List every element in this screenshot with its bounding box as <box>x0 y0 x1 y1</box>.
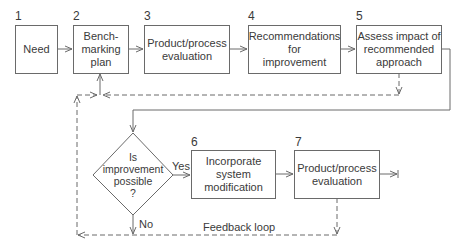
step-6-number: 6 <box>191 136 198 148</box>
step-7-box: Product/process evaluation <box>294 150 380 199</box>
step-1-box: Need <box>15 25 58 74</box>
feedback-loop-label: Feedback loop <box>203 221 275 233</box>
benchmarking-flowchart: 1 Need 2 Bench- marking plan 3 Product/p… <box>0 0 463 249</box>
step-7-number: 7 <box>295 136 302 148</box>
step-1-number: 1 <box>15 10 22 22</box>
step-4-number: 4 <box>248 10 255 22</box>
yes-label: Yes <box>172 160 190 172</box>
step-3-box: Product/process evaluation <box>144 25 230 74</box>
step-2-box: Bench- marking plan <box>73 25 129 74</box>
step-5-number: 5 <box>356 10 363 22</box>
no-label: No <box>139 218 153 230</box>
step-2-number: 2 <box>73 10 80 22</box>
step-3-number: 3 <box>144 10 151 22</box>
step-5-box: Assess impact of recommended approach <box>356 25 442 74</box>
decision-label: Is improvement possible ? <box>93 151 173 199</box>
step-4-box: Recommendations for improvement <box>248 25 341 74</box>
step-6-box: Incorporate system modification <box>191 150 276 199</box>
